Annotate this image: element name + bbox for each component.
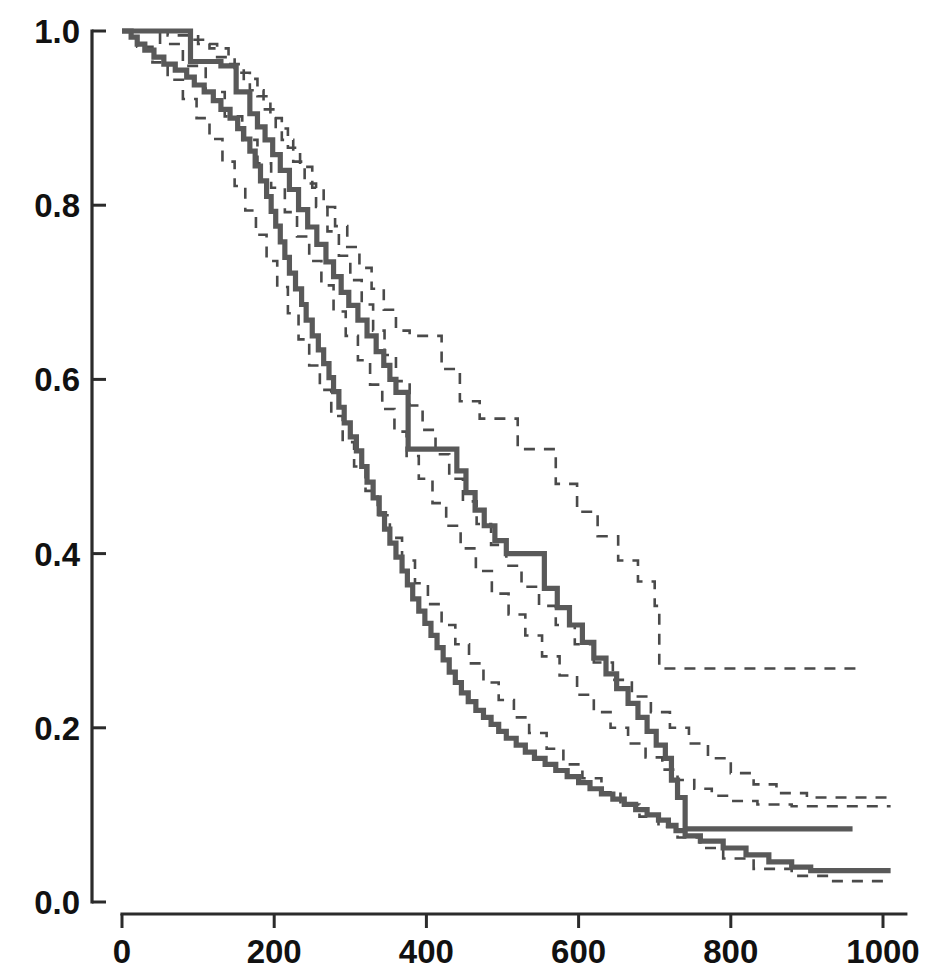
y-axis-tick-label: 0.4 [34, 536, 81, 573]
x-axis-tick-label: 800 [703, 933, 758, 970]
y-axis-tick-label: 0.6 [34, 361, 80, 398]
survival-plot-figure: 0.00.20.40.60.81.0 02004006008001000 [0, 0, 945, 979]
confidence-interval-curve [122, 31, 891, 881]
survival-curves-group [122, 31, 891, 881]
x-axis-tick-label: 1000 [846, 933, 919, 970]
x-axis-tick-label: 600 [551, 933, 606, 970]
confidence-interval-curve [122, 31, 856, 669]
survival-estimate-curve [122, 31, 853, 829]
x-axis-tick-marks [122, 914, 883, 928]
confidence-interval-curve [122, 31, 891, 797]
x-axis-tick-label: 0 [113, 933, 131, 970]
y-axis-tick-label: 0.8 [34, 187, 80, 224]
y-axis-tick-labels: 0.00.20.40.60.81.0 [34, 13, 81, 921]
x-axis-tick-label: 400 [399, 933, 454, 970]
survival-estimate-curve [122, 31, 891, 871]
x-axis-tick-labels: 02004006008001000 [113, 933, 920, 970]
y-axis-tick-marks [92, 31, 106, 902]
kaplan-meier-chart: 0.00.20.40.60.81.0 02004006008001000 [0, 0, 945, 979]
y-axis-tick-label: 0.0 [34, 884, 80, 921]
y-axis-tick-label: 1.0 [34, 13, 80, 50]
y-axis-tick-label: 0.2 [34, 710, 80, 747]
x-axis-tick-label: 200 [247, 933, 302, 970]
confidence-interval-curve [122, 31, 891, 806]
